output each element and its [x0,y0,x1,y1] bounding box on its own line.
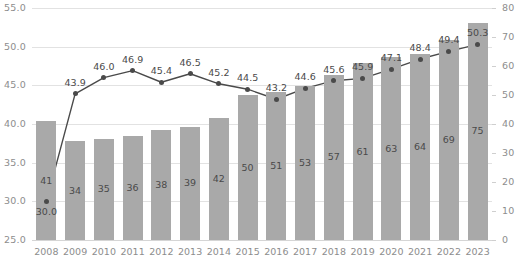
right-axis-tick [492,240,496,241]
bar-value-label: 63 [376,143,406,154]
line-data-point [274,97,279,102]
bar-value-label: 50 [233,162,263,173]
line-value-label: 46.9 [116,54,150,65]
right-axis-tick [492,95,496,96]
line-value-label: 43.2 [259,82,293,93]
right-axis-tick-label: 80 [502,2,515,13]
bar-value-label: 75 [463,125,493,136]
line-data-point [159,80,164,85]
right-axis-tick [492,153,496,154]
x-axis-label: 2023 [458,246,498,257]
bar-value-label: 36 [118,182,148,193]
right-axis-tick [492,66,496,67]
plot-area: 4134353638394250515357616364697530.043.9… [32,8,492,240]
right-axis-tick-label: 50 [502,89,515,100]
left-axis-tick-label: 50.0 [0,41,26,52]
line-data-point [188,71,193,76]
line-data-point [245,87,250,92]
line-data-point [475,42,480,47]
left-axis-tick-label: 30.0 [0,195,26,206]
left-axis-tick-label: 35.0 [0,157,26,168]
bar-value-label: 38 [146,179,176,190]
right-axis-tick-label: 40 [502,118,515,129]
line-data-point [44,199,49,204]
bar-value-label: 57 [319,151,349,162]
bar-value-label: 51 [261,160,291,171]
right-axis-tick-label: 30 [502,147,515,158]
bar-value-label: 41 [31,175,61,186]
left-axis-tick-label: 55.0 [0,2,26,13]
line-value-label: 43.9 [58,77,92,88]
right-axis-tick [492,8,496,9]
right-axis-tick [492,182,496,183]
line-data-point [73,91,78,96]
bar-value-label: 42 [204,173,234,184]
right-axis-tick-label: 20 [502,176,515,187]
bar-value-label: 39 [175,177,205,188]
right-axis-tick [492,211,496,212]
left-axis-tick-label: 25.0 [0,234,26,245]
axis-baseline [32,240,492,241]
bar-value-label: 69 [434,134,464,145]
line-data-point [360,76,365,81]
right-axis-tick-label: 60 [502,60,515,71]
right-axis-tick [492,124,496,125]
bar-value-label: 35 [89,183,119,194]
chart-container: 4134353638394250515357616364697530.043.9… [0,0,525,269]
right-axis-tick-label: 0 [502,234,508,245]
line-data-point [303,86,308,91]
line-data-point [389,67,394,72]
bar-value-label: 34 [60,185,90,196]
right-axis-tick [492,37,496,38]
bar-value-label: 53 [290,157,320,168]
line-value-label: 47.1 [374,52,408,63]
line-data-point [418,57,423,62]
left-axis-tick-label: 45.0 [0,79,26,90]
bar-value-label: 61 [348,146,378,157]
right-axis-tick-label: 10 [502,205,515,216]
line-value-label: 30.0 [29,206,63,217]
left-axis-tick-label: 40.0 [0,118,26,129]
right-axis-tick-label: 70 [502,31,515,42]
line-value-label: 50.3 [461,27,495,38]
bar-value-label: 64 [405,141,435,152]
